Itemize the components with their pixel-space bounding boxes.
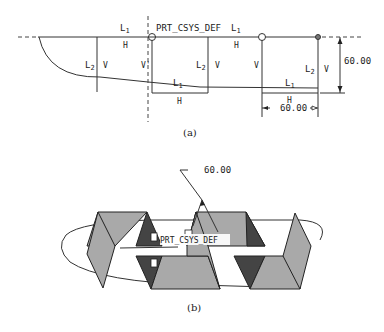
csys-axis-marker-y (151, 259, 157, 267)
label-v-mid: V (215, 61, 220, 70)
label-h-bottom-right: H (287, 96, 292, 105)
label-h-top-left: H (123, 41, 128, 50)
label-l2-left: L2 (85, 60, 95, 72)
label-v-right-b: V (324, 65, 329, 74)
label-h-top-right: H (234, 41, 239, 50)
vertical-dimension-value: 60.00 (344, 56, 371, 66)
label-v-left: V (103, 61, 108, 70)
figure-b: PRT_CSYS_DEF 60.00 (b) (61, 165, 322, 313)
figure-canvas: 60.00 60.00 L1 H L2 V V' PRT_CSYS_DEF L2… (0, 0, 384, 332)
csys-label: PRT_CSYS_DEF (156, 23, 221, 33)
label-v-right-a: V (254, 61, 259, 70)
caption-b: (b) (187, 302, 201, 313)
dimension-value-3d: 60.00 (204, 165, 231, 175)
panel-dark-2 (246, 212, 265, 246)
figure-a: 60.00 60.00 L1 H L2 V V' PRT_CSYS_DEF L2… (18, 16, 371, 138)
node-marker-mid (259, 34, 266, 41)
label-l2-mid: L2 (196, 60, 206, 72)
horizontal-dimension-value: 60.00 (280, 103, 307, 113)
node-marker-right (316, 35, 321, 40)
label-l1-top-right: L1 (231, 23, 241, 35)
csys-axis-marker-x (151, 233, 157, 241)
csys-label-3d: PRT_CSYS_DEF (160, 236, 218, 245)
trajectory-curve (39, 37, 318, 88)
caption-a: (a) (183, 127, 197, 138)
label-l2-right: L2 (305, 64, 315, 76)
label-l1-mid-bottom: L1 (173, 78, 183, 90)
label-l1-top-left: L1 (120, 23, 130, 35)
label-v-prime: V' (141, 61, 151, 70)
label-h-bottom-mid: H (177, 97, 182, 106)
